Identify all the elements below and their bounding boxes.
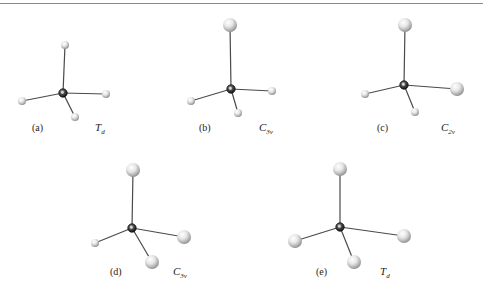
central-atom-highlight [402,83,405,86]
molecule-panel-d: (d)C3v [91,163,191,280]
small-ligand-atom [268,87,276,95]
point-group-label: C3v [173,265,188,280]
bond [22,93,63,101]
panel-label: (b) [199,122,211,134]
large-ligand-atom [126,163,140,177]
molecule-panel-b: (b)C3v [187,18,276,136]
large-ligand-atom [177,230,191,244]
point-group-label: C2v [441,121,456,136]
small-ligand-atom [18,97,26,105]
large-ligand-atom [145,255,159,269]
bond [230,25,231,89]
bond [63,93,106,94]
large-ligand-atom [450,82,464,96]
bond [63,45,65,93]
large-ligand-atom [288,234,302,248]
bond [404,85,457,89]
molecule-diagram: (a)Td(b)C3v(c)C2v(d)C3v(e)Td [0,0,483,288]
bond [340,227,404,236]
large-ligand-atom [397,229,411,243]
bond [132,228,184,237]
bond [404,25,405,85]
molecule-panel-e: (e)Td [288,162,411,280]
small-ligand-atom [102,90,110,98]
large-ligand-atom [347,255,361,269]
bond [295,227,340,241]
molecule-panel-c: (c)C2v [361,18,464,136]
panel-label: (a) [32,122,43,134]
point-group-label: C3v [259,121,274,136]
central-atom-highlight [130,226,133,229]
point-group-label: Td [95,121,105,136]
small-ligand-atom [411,108,419,116]
molecule-panel-a: (a)Td [18,41,110,136]
small-ligand-atom [91,239,99,247]
bond [231,89,272,91]
small-ligand-atom [361,90,369,98]
small-ligand-atom [187,97,195,105]
central-atom-highlight [229,87,232,90]
point-group-label: Td [380,265,390,280]
large-ligand-atom [333,162,347,176]
panel-label: (e) [316,266,327,278]
small-ligand-atom [71,113,79,121]
panel-label: (d) [110,266,122,278]
panel-label: (c) [377,122,388,134]
central-atom-highlight [61,91,64,94]
central-atom-highlight [338,225,341,228]
small-ligand-atom [234,109,242,117]
large-ligand-atom [223,18,237,32]
large-ligand-atom [398,18,412,32]
bond [365,85,404,94]
bond [191,89,231,101]
bond [95,228,132,243]
small-ligand-atom [61,41,69,49]
bond [132,170,133,228]
